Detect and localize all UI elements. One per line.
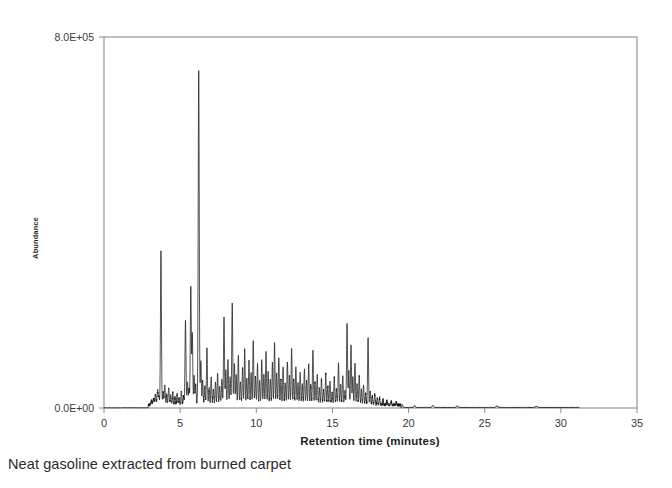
x-tick-label: 10 <box>250 417 262 429</box>
x-axis-tick-labels: 05101520253035 <box>101 417 643 429</box>
y-tick-label: 0.0E+00 <box>55 402 95 414</box>
y-tick-label: 8.0E+05 <box>55 31 95 43</box>
y-axis-tick-labels: 0.0E+008.0E+05 <box>55 31 95 414</box>
x-tick-label: 25 <box>479 417 491 429</box>
x-tick-label: 0 <box>101 417 107 429</box>
x-tick-label: 20 <box>402 417 414 429</box>
plot-frame <box>104 37 637 408</box>
x-tick-label: 5 <box>177 417 183 429</box>
chromatogram-plot: 05101520253035 0.0E+008.0E+05 Retention … <box>0 0 672 452</box>
x-tick-label: 15 <box>326 417 338 429</box>
chromatogram-figure: 05101520253035 0.0E+008.0E+05 Retention … <box>0 0 672 452</box>
chromatogram-trace <box>104 71 579 408</box>
y-axis-ticks <box>99 37 104 408</box>
y-axis-title: Abundance <box>31 217 40 259</box>
x-tick-label: 35 <box>631 417 643 429</box>
figure-caption: Neat gasoline extracted from burned carp… <box>8 456 648 472</box>
x-axis-title: Retention time (minutes) <box>300 435 440 447</box>
x-axis-ticks <box>104 408 637 413</box>
x-tick-label: 30 <box>555 417 567 429</box>
